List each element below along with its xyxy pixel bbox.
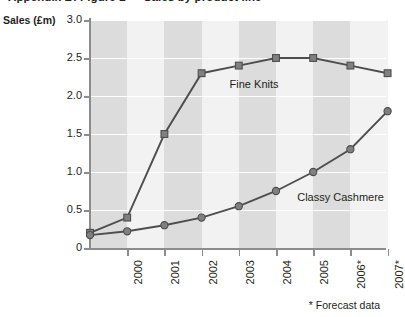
data-point — [124, 214, 131, 221]
data-point — [347, 62, 354, 69]
data-point — [310, 55, 317, 62]
data-point — [384, 70, 391, 77]
data-point — [198, 214, 205, 221]
data-point — [310, 168, 317, 175]
data-point — [235, 62, 242, 69]
data-point — [384, 108, 391, 115]
data-point — [198, 70, 205, 77]
data-point — [124, 228, 131, 235]
series-label-fine-knits: Fine Knits — [230, 78, 279, 90]
data-point — [347, 146, 354, 153]
forecast-footnote: * Forecast data — [309, 299, 380, 311]
data-point — [161, 131, 168, 138]
data-point — [272, 187, 279, 194]
data-point — [235, 203, 242, 210]
series-line-classy-cashmere — [90, 111, 388, 235]
x-axis-tick-label: 2007* — [393, 260, 405, 289]
data-point — [273, 55, 280, 62]
data-point — [86, 231, 93, 238]
data-point — [161, 222, 168, 229]
series-label-classy-cashmere: Classy Cashmere — [297, 191, 384, 203]
x-axis-tick — [388, 249, 390, 256]
